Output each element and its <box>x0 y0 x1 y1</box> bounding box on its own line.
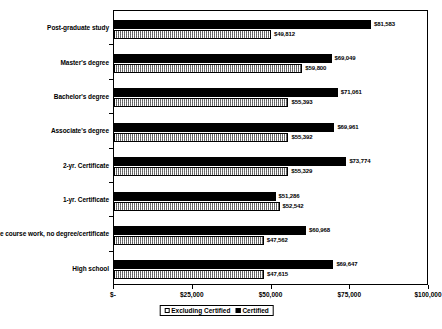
legend-entry-certified: Certified <box>235 307 268 314</box>
bar-value-label-excluding-certified: $49,812 <box>274 30 295 39</box>
bar-certified <box>114 192 276 201</box>
y-axis-tick <box>109 148 113 149</box>
legend-swatch-certified-icon <box>235 308 240 313</box>
y-axis-tick <box>109 251 113 252</box>
bar-value-label-certified: $69,647 <box>336 260 357 269</box>
bar-value-label-excluding-certified: $47,562 <box>267 236 288 245</box>
bar-value-label-certified: $51,286 <box>279 192 300 201</box>
bar-excluding-certified <box>114 133 288 142</box>
y-axis-tick <box>109 44 113 45</box>
bar-value-label-excluding-certified: $47,615 <box>267 270 288 279</box>
category-axis-label: Associate's degree <box>0 127 109 135</box>
bar-certified <box>114 88 338 97</box>
bar-certified <box>114 20 371 29</box>
bar-certified <box>114 54 332 63</box>
category-axis-label: Master's degree <box>0 59 109 67</box>
bar-value-label-certified: $71,061 <box>341 88 362 97</box>
bar-excluding-certified <box>114 202 280 211</box>
bar-value-label-excluding-certified: $55,392 <box>291 133 312 142</box>
bar-excluding-certified <box>114 167 288 176</box>
bar-value-label-certified: $81,583 <box>374 20 395 29</box>
y-axis-tick <box>109 216 113 217</box>
x-axis-tick-label: $25,000 <box>180 291 204 298</box>
x-axis-tick-label: $50,000 <box>259 291 283 298</box>
bar-value-label-certified: $69,961 <box>337 123 358 132</box>
bar-certified <box>114 260 333 269</box>
bar-excluding-certified <box>114 64 302 73</box>
category-axis-label: 2-yr. Certificate <box>0 162 109 170</box>
bar-excluding-certified <box>114 236 264 245</box>
bar-value-label-excluding-certified: $52,542 <box>283 202 304 211</box>
bar-certified <box>114 226 306 235</box>
bar-value-label-certified: $60,968 <box>309 226 330 235</box>
category-axis-label: Bachelor's degree <box>0 93 109 101</box>
x-axis-tick <box>113 285 114 289</box>
bar-excluding-certified <box>114 270 264 279</box>
x-axis-tick <box>428 285 429 289</box>
x-axis-tick <box>349 285 350 289</box>
bar-certified <box>114 157 346 166</box>
x-axis-tick-label: $- <box>110 291 116 298</box>
plot-area: $81,583$49,812$69,049$59,800$71,061$55,3… <box>113 10 428 285</box>
bar-value-label-excluding-certified: $55,393 <box>291 98 312 107</box>
bar-value-label-certified: $69,049 <box>335 54 356 63</box>
bar-value-label-certified: $73,774 <box>349 157 370 166</box>
bar-value-label-excluding-certified: $59,800 <box>305 64 326 73</box>
chart-legend: Excluding Certified Certified <box>159 305 274 316</box>
y-axis-tick <box>109 113 113 114</box>
y-axis-tick <box>109 79 113 80</box>
bar-certified <box>114 123 334 132</box>
legend-swatch-excluding-certified-icon <box>164 308 169 313</box>
x-axis-tick-label: $75,000 <box>338 291 362 298</box>
x-axis-tick-label: $100,000 <box>414 291 441 298</box>
legend-entry-excluding-certified: Excluding Certified <box>164 307 230 314</box>
y-axis-tick <box>109 182 113 183</box>
category-axis-label: Some college course work, no degree/cert… <box>0 230 109 238</box>
x-axis-tick <box>192 285 193 289</box>
x-axis-tick <box>271 285 272 289</box>
bar-excluding-certified <box>114 98 288 107</box>
bar-value-label-excluding-certified: $55,329 <box>291 167 312 176</box>
bar-excluding-certified <box>114 30 271 39</box>
category-axis-label: High school <box>0 265 109 273</box>
category-axis-label: Post-graduate study <box>0 24 109 32</box>
category-axis-label: 1-yr. Certificate <box>0 196 109 204</box>
legend-label-certified: Certified <box>242 307 268 314</box>
legend-label-excluding-certified: Excluding Certified <box>171 307 230 314</box>
